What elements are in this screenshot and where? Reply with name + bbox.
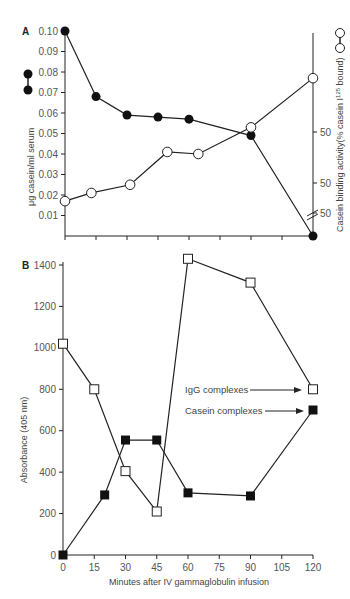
data-point <box>100 490 109 499</box>
open-circle-legend-icon <box>336 29 345 53</box>
x-tick-label: 45 <box>151 562 163 573</box>
y-tick-label: 0.02 <box>39 190 59 201</box>
right-y-tick-label: 50 <box>320 178 332 189</box>
data-point <box>309 385 318 394</box>
x-tick-label: 75 <box>214 562 226 573</box>
data-point <box>309 232 318 241</box>
x-tick-label: 60 <box>182 562 194 573</box>
data-point <box>308 73 318 83</box>
panel-b-x-ticks: 0153045607590105120 <box>60 555 322 573</box>
series-line <box>65 31 313 236</box>
y-tick-label: 0.09 <box>39 46 59 57</box>
arrow-icon <box>265 408 304 414</box>
panel-b-ylabel: Absorbance (405 nm) <box>19 397 29 484</box>
data-point <box>123 111 132 120</box>
data-point <box>246 491 255 500</box>
filled-circle-legend-icon <box>24 70 33 95</box>
y-tick-label: 0.10 <box>39 26 59 37</box>
panel-a-right-ticks: 505050 <box>313 127 332 219</box>
y-tick-label: 1000 <box>34 342 57 353</box>
panel-a: A 0.100.090.080.070.060.050.040.030.020.… <box>22 26 345 241</box>
figure: A 0.100.090.080.070.060.050.040.030.020.… <box>0 0 350 599</box>
y-tick-label: 1200 <box>34 301 57 312</box>
panel-b: B 0200400600800100012001400 015304560759… <box>19 254 322 587</box>
right-y-tick-label: 50 <box>320 127 332 138</box>
y-tick-label: 0.01 <box>39 210 59 221</box>
arrow-icon <box>250 387 302 393</box>
data-point <box>59 551 68 560</box>
y-tick-label: 0.04 <box>39 149 59 160</box>
data-point <box>246 123 256 133</box>
y-tick-label: 0 <box>50 550 56 561</box>
data-point <box>90 385 99 394</box>
data-point <box>184 254 193 263</box>
x-tick-label: 0 <box>60 562 66 573</box>
y-tick-label: 0.03 <box>39 169 59 180</box>
panel-b-label: B <box>22 260 29 271</box>
y-tick-label: 0.07 <box>39 87 59 98</box>
series-line <box>65 78 313 201</box>
x-tick-label: 30 <box>120 562 132 573</box>
data-point <box>121 436 130 445</box>
data-point <box>154 113 163 122</box>
data-point <box>87 188 97 198</box>
y-tick-label: 0.08 <box>39 67 59 78</box>
right-y-tick-label: 50 <box>320 208 332 219</box>
panel-a-right-ylabel: Casein binding activity(% casein I125 bo… <box>335 57 345 232</box>
data-point <box>92 92 101 101</box>
panel-a-label: A <box>22 26 29 37</box>
x-tick-label: 15 <box>89 562 101 573</box>
panel-a-series <box>60 27 318 241</box>
data-point <box>60 196 70 206</box>
data-point <box>185 115 194 124</box>
data-point <box>59 339 68 348</box>
series-line <box>63 410 313 555</box>
data-point <box>309 406 318 415</box>
y-tick-label: 400 <box>39 467 56 478</box>
x-tick-label: 105 <box>273 562 290 573</box>
panel-b-xlabel: Minutes after IV gammaglobulin infusion <box>109 577 269 587</box>
panel-a-left-ylabel: μg casein/ml serum <box>26 128 36 206</box>
y-tick-label: 800 <box>39 384 56 395</box>
x-tick-label: 120 <box>305 562 322 573</box>
data-point <box>152 436 161 445</box>
y-tick-label: 0.05 <box>39 128 59 139</box>
x-tick-label: 90 <box>245 562 257 573</box>
y-tick-label: 600 <box>39 425 56 436</box>
data-point <box>61 27 70 36</box>
panel-a-x-ticks <box>65 236 313 240</box>
data-point <box>152 507 161 516</box>
y-tick-label: 200 <box>39 508 56 519</box>
panel-a-y-ticks: 0.100.090.080.070.060.050.040.030.020.01 <box>39 26 65 222</box>
casein-complexes-annotation: Casein complexes <box>185 405 263 416</box>
data-point <box>184 488 193 497</box>
data-point <box>121 467 130 476</box>
y-tick-label: 1400 <box>34 260 57 271</box>
data-point <box>194 149 204 159</box>
y-tick-label: 0.06 <box>39 108 59 119</box>
panel-b-y-ticks: 0200400600800100012001400 <box>34 260 63 561</box>
igg-complexes-annotation: IgG complexes <box>185 384 249 395</box>
data-point <box>246 278 255 287</box>
data-point <box>125 180 135 190</box>
data-point <box>163 147 173 157</box>
